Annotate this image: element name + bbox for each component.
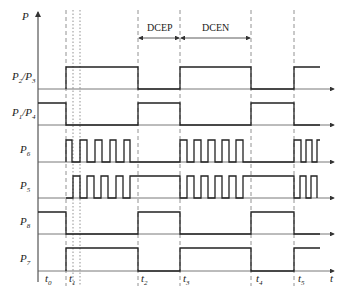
waveform-p7 xyxy=(66,248,320,271)
time-label-t0: t0 xyxy=(45,272,52,287)
waveform-p2p3 xyxy=(66,67,320,89)
signal-labels: P2/P3 P1/P4 P6 P5 P8 P7 xyxy=(11,70,36,267)
region-dcep-label: DCEP xyxy=(147,22,173,33)
signal-label-p7: P7 xyxy=(19,252,31,267)
signal-label-p8: P8 xyxy=(19,215,31,230)
time-label-t1: t1 xyxy=(69,272,76,287)
time-label-t4: t4 xyxy=(256,272,263,287)
time-labels: t0 t1 t2 t3 t4 t5 t xyxy=(45,272,334,287)
y-axis-label: P xyxy=(21,10,29,22)
signal-label-p5: P5 xyxy=(19,179,31,194)
x-axis-label: t xyxy=(330,272,334,284)
signal-label-p1p4: P1/P4 xyxy=(11,106,36,121)
waveform-p6 xyxy=(66,140,320,162)
region-dcen-label: DCEN xyxy=(202,22,229,33)
time-label-t2: t2 xyxy=(141,272,148,287)
waveform-p1p4 xyxy=(38,103,320,125)
time-label-t3: t3 xyxy=(183,272,190,287)
time-label-t5: t5 xyxy=(298,272,305,287)
polarity-regions: DCEP DCEN xyxy=(139,22,250,38)
signal-label-p2p3: P2/P3 xyxy=(11,70,36,85)
timing-diagram: P DCEP DCEN P2/P3 P1/P4 P6 P5 P8 P7 xyxy=(0,0,348,304)
signal-label-p6: P6 xyxy=(19,143,31,158)
signal-baselines xyxy=(38,89,334,271)
waveform-p5 xyxy=(66,176,317,198)
